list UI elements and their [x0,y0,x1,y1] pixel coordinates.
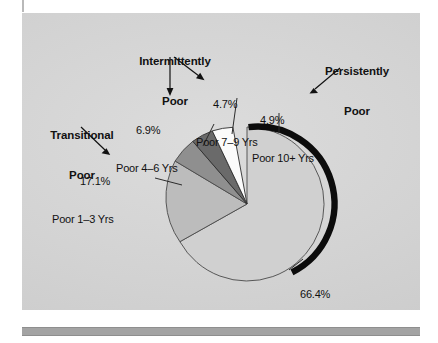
slice-name-poor-1-3-yrs: Poor 1–3 Yrs [52,213,156,226]
slice-pct-poor-1-3-yrs: 17.1% [52,175,156,188]
slice-pct-poor-4-6-yrs: 6.9% [116,124,210,137]
slice-pct-never-poor: 66.4% [290,288,380,301]
callout-persistently-line1: Persistently [307,65,407,78]
slice-label-poor-1-3-yrs: 17.1% Poor 1–3 Yrs [52,149,156,251]
callout-intermittently-line1: Intermittently [122,55,228,68]
footer-rule [22,327,420,336]
figure-root: Intermittently Poor Persistently Poor Tr… [0,0,438,343]
